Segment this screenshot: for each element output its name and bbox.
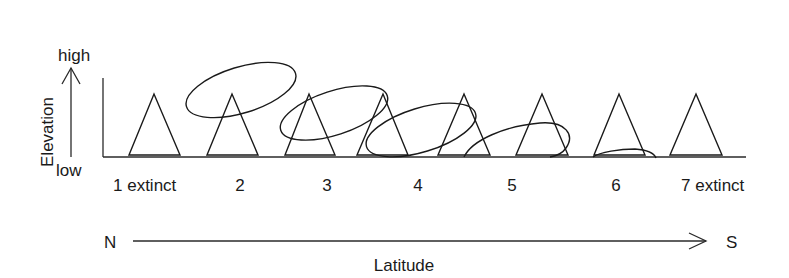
plot-frame [103, 78, 746, 157]
mountain-label-3: 3 [322, 176, 331, 195]
elevation-axis: high Elevation low [38, 46, 90, 180]
elevation-high-label: high [58, 46, 90, 65]
mountain-label-7: 7 extinct [681, 176, 745, 195]
latitude-axis: N S Latitude [104, 233, 737, 275]
mountain-label-1: 1 extinct [113, 176, 177, 195]
latitude-south-label: S [726, 233, 737, 252]
elevation-latitude-diagram: high Elevation low 1 extinct 2 3 4 5 6 [0, 0, 789, 278]
mountain-1 [129, 94, 180, 155]
mountains [129, 94, 722, 155]
mountain-labels: 1 extinct 2 3 4 5 6 7 extinct [113, 176, 745, 195]
mountain-2 [207, 94, 258, 155]
mountain-3 [285, 94, 335, 155]
elevation-title: Elevation [38, 97, 57, 167]
range-ellipses [180, 51, 656, 167]
mountain-label-2: 2 [235, 176, 244, 195]
mountain-label-4: 4 [413, 176, 422, 195]
mountain-7 [594, 94, 645, 155]
mountain-8 [670, 94, 722, 155]
mountain-4 [357, 94, 408, 155]
latitude-north-label: N [104, 233, 116, 252]
mountain-label-5: 5 [507, 176, 516, 195]
latitude-title: Latitude [374, 256, 435, 275]
elevation-low-label: low [56, 161, 82, 180]
mountain-label-6: 6 [611, 176, 620, 195]
